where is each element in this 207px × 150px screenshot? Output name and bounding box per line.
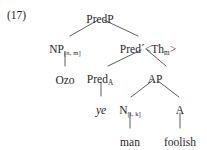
tree-node-pred-a: PredA [87, 74, 113, 86]
tree-node-pred-bar: Pred´<Thm> [120, 44, 176, 56]
tree-node-n: N[i, k] [119, 105, 141, 117]
tree-node-pred-bar-label: Pred´ [120, 43, 145, 55]
tree-node-pred-bar-theta-close: > [170, 43, 177, 55]
tree-node-pred-a-subscript: A [108, 79, 113, 87]
tree-node-a: A [176, 105, 184, 117]
tree-terminal-man: man [120, 137, 140, 149]
tree-terminal-ye-label: ye [96, 104, 106, 116]
tree-node-np: NP[n, m] [49, 44, 80, 56]
tree-terminal-foolish-label: foolish [164, 136, 196, 148]
tree-terminal-man-label: man [120, 136, 140, 148]
tree-terminal-foolish: foolish [164, 137, 196, 149]
tree-terminal-ozo: Ozo [55, 75, 74, 87]
tree-node-a-label: A [176, 104, 184, 116]
tree-terminal-ozo-label: Ozo [55, 74, 74, 86]
tree-node-np-subscript: [n, m] [64, 49, 81, 56]
tree-node-pred-bar-theta-subscript: m [164, 49, 170, 57]
tree-node-predp: PredP [86, 14, 113, 26]
tree-node-pred-bar-theta-open: <Th [145, 43, 164, 55]
tree-node-n-subscript: [i, k] [127, 110, 140, 117]
tree-node-ap: AP [148, 74, 163, 86]
tree-node-pred-a-label: Pred [87, 73, 108, 85]
tree-terminal-ye: ye [96, 105, 106, 117]
tree-node-ap-label: AP [148, 73, 163, 85]
figure-container: (17) PredP NP[n, m [0, 0, 207, 150]
tree-node-predp-label: PredP [86, 13, 113, 25]
tree-node-np-label: NP [49, 43, 64, 55]
